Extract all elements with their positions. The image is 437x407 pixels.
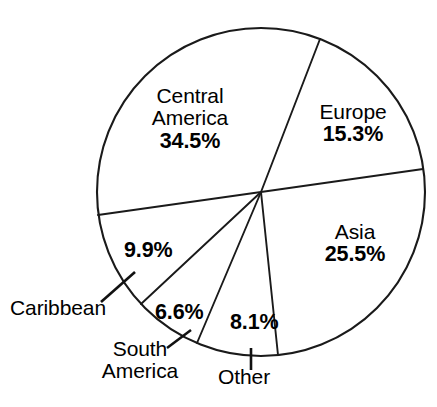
slice-value-asia: 25.5% [302,243,408,266]
slice-label-central-america-line1: Central [120,85,260,107]
slice-label-asia: Asia 25.5% [302,221,408,266]
slice-value-south-america: 6.6% [155,300,204,325]
slice-label-south-america-line2: America [102,359,178,382]
pie-chart-graphic [0,0,437,407]
slice-label-south-america-line1: South [113,337,167,360]
slice-label-caribbean-name: Caribbean [10,297,106,319]
slice-value-europe: 15.3% [300,123,406,146]
slice-value-other: 8.1% [230,310,279,335]
slice-label-south-america-name: South America [88,338,192,383]
slice-value-caribbean: 9.9% [124,238,173,263]
slice-label-central-america: Central America 34.5% [120,85,260,152]
slice-value-central-america: 34.5% [120,130,260,153]
pie-chart: Central America 34.5% Europe 15.3% Asia … [0,0,437,407]
slice-label-asia-name: Asia [302,221,408,243]
slice-label-europe-name: Europe [300,101,406,123]
slice-label-europe: Europe 15.3% [300,101,406,146]
slice-label-other-name: Other [218,366,270,388]
slice-label-central-america-line2: America [120,107,260,129]
